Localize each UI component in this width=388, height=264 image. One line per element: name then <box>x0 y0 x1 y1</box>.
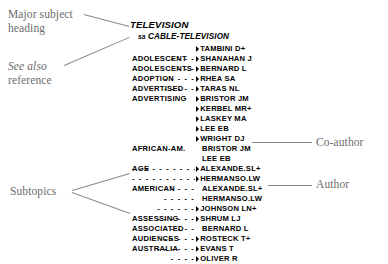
record-row[interactable]: AUSTRALIA- - - - - -EVANS T <box>0 244 388 254</box>
dot-leader: - - - - <box>132 254 195 264</box>
name-text: SHRUM LJ <box>200 214 240 223</box>
major-subject-heading-text: TELEVISION <box>130 19 189 30</box>
record-row[interactable]: AFRICAN-AM.BRISTOR JM <box>0 144 388 154</box>
triangle-marker-icon <box>196 216 199 222</box>
coauthor-name[interactable]: BERNARD L <box>202 224 249 234</box>
record-row[interactable]: - - - -OLIVER R <box>0 254 388 264</box>
record-row[interactable]: ADOPTION- - - - -RHEA SA <box>0 74 388 84</box>
coauthor-name[interactable]: BRISTOR JM <box>202 144 251 154</box>
triangle-marker-icon <box>196 206 199 212</box>
record-row[interactable]: ADOLESCENTS- - -BERNARD L <box>0 64 388 74</box>
name-text: HERMANSO.LW <box>200 174 260 183</box>
name-text: LEE EB <box>202 154 231 163</box>
author-name[interactable]: ALEXANDE.SL+ <box>196 164 261 174</box>
author-name[interactable]: HERMANSO.LW <box>196 174 260 184</box>
coauthor-name[interactable]: LEE EB <box>202 154 231 164</box>
name-text: HERMANSO.LW <box>202 194 262 203</box>
triangle-marker-icon <box>196 136 199 142</box>
dot-leader: - - - - - - <box>132 204 195 214</box>
record-row[interactable]: - - - - - -JOHNSON LN+ <box>0 204 388 214</box>
record-row[interactable]: LASKEY MA <box>0 114 388 124</box>
dot-leader: - - - - - - - - - - - - <box>132 164 195 174</box>
triangle-marker-icon <box>196 86 199 92</box>
name-text: TARAS NL <box>200 84 239 93</box>
name-text: LEE EB <box>200 124 229 133</box>
author-name[interactable]: RHEA SA <box>196 74 235 84</box>
dot-leader: - - - - - <box>132 74 195 84</box>
record-row[interactable]: ASSESSING- - - - - -SHRUM LJ <box>0 214 388 224</box>
record-row[interactable]: ASSOCIATED- - - -BERNARD L <box>0 224 388 234</box>
record-row[interactable]: LEE EB <box>0 124 388 134</box>
record-row[interactable]: LEE EB <box>0 154 388 164</box>
triangle-marker-icon <box>196 76 199 82</box>
subtopic-label: AFRICAN-AM. <box>132 144 185 154</box>
name-text: KERBEL MR+ <box>200 104 251 113</box>
author-name[interactable]: TAMBINI D+ <box>196 44 245 54</box>
dot-leader: - - - - - <box>132 194 195 204</box>
name-text: ALEXANDE.SL+ <box>200 164 260 173</box>
name-text: JOHNSON LN+ <box>200 204 256 213</box>
triangle-marker-icon <box>196 176 199 182</box>
author-name[interactable]: KERBEL MR+ <box>196 104 252 114</box>
triangle-marker-icon <box>196 246 199 252</box>
name-text: ROSTECK T+ <box>200 234 250 243</box>
record-row[interactable]: WRIGHT DJ <box>0 134 388 144</box>
subtopic-label: ADVERTISING <box>132 94 187 104</box>
coauthor-name[interactable]: ALEXANDE.SL+ <box>202 184 262 194</box>
triangle-marker-icon <box>196 236 199 242</box>
record-row[interactable]: ADOLESCENT- - - -SHANAHAN J <box>0 54 388 64</box>
triangle-marker-icon <box>196 126 199 132</box>
author-name[interactable]: JOHNSON LN+ <box>196 204 257 214</box>
triangle-marker-icon <box>196 256 199 262</box>
record-row[interactable]: ADVERTISED- - - - -TARAS NL <box>0 84 388 94</box>
record-row[interactable]: - - - - - - - - - - -HERMANSO.LW <box>0 174 388 184</box>
triangle-marker-icon <box>196 116 199 122</box>
triangle-marker-icon <box>196 106 199 112</box>
name-text: RHEA SA <box>200 74 235 83</box>
name-text: BERNARD L <box>200 64 247 73</box>
name-text: BERNARD L <box>202 224 249 233</box>
author-name[interactable]: SHANAHAN J <box>196 54 252 64</box>
author-name[interactable]: SHRUM LJ <box>196 214 241 224</box>
name-text: OLIVER R <box>200 254 237 263</box>
dot-leader: - - - <box>132 64 195 74</box>
record-row[interactable]: AUDIENCES- - - - -ROSTECK T+ <box>0 234 388 244</box>
triangle-marker-icon <box>196 66 199 72</box>
dot-leader: - - - - - - - - - - - <box>132 174 195 184</box>
record-row[interactable]: - - - - -HERMANSO.LW <box>0 194 388 204</box>
record-row[interactable]: ADVERTISINGBRISTOR JM <box>0 94 388 104</box>
author-name[interactable]: OLIVER R <box>196 254 238 264</box>
author-name[interactable]: LASKEY MA <box>196 114 247 124</box>
record-row[interactable]: TAMBINI D+ <box>0 44 388 54</box>
dot-leader: - - - - - <box>132 84 195 94</box>
triangle-marker-icon <box>196 56 199 62</box>
triangle-marker-icon <box>196 96 199 102</box>
triangle-marker-icon <box>196 166 199 172</box>
author-name[interactable]: BERNARD L <box>196 64 247 74</box>
dot-leader: - - - - <box>132 54 195 64</box>
see-also-tag: sa <box>138 33 146 40</box>
author-name[interactable]: WRIGHT DJ <box>196 134 245 144</box>
see-also-target: CABLE-TELEVISION <box>148 32 229 41</box>
name-text: BRISTOR JM <box>202 144 251 153</box>
record-row[interactable]: KERBEL MR+ <box>0 104 388 114</box>
dot-leader: - - - - - <box>132 184 195 194</box>
triangle-marker-icon <box>196 46 199 52</box>
record-row[interactable]: AMERICAN- - - - -ALEXANDE.SL+ <box>0 184 388 194</box>
author-name[interactable]: LEE EB <box>196 124 229 134</box>
author-name[interactable]: TARAS NL <box>196 84 240 94</box>
dot-leader: - - - - - - <box>132 214 195 224</box>
author-name[interactable]: EVANS T <box>196 244 234 254</box>
dot-leader: - - - - - - <box>132 244 195 254</box>
coauthor-name[interactable]: HERMANSO.LW <box>202 194 262 204</box>
name-text: TAMBINI D+ <box>200 44 245 53</box>
name-text: SHANAHAN J <box>200 54 252 63</box>
author-name[interactable]: ROSTECK T+ <box>196 234 251 244</box>
name-text: WRIGHT DJ <box>200 134 244 143</box>
author-name[interactable]: BRISTOR JM <box>196 94 249 104</box>
record-row[interactable]: AGE- - - - - - - - - - - -ALEXANDE.SL+ <box>0 164 388 174</box>
see-also-reference-text: sa CABLE-TELEVISION <box>138 32 229 41</box>
name-text: EVANS T <box>200 244 234 253</box>
